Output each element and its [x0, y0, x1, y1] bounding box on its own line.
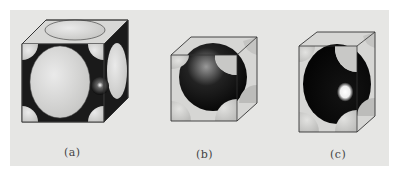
caption-b: (b): [196, 148, 213, 161]
bct-unit-cell-diagram: [295, 28, 380, 138]
fcc-unit-cell-diagram: [18, 16, 133, 126]
caption-a: (a): [64, 146, 81, 159]
caption-c: (c): [330, 148, 346, 161]
bcc-unit-cell-diagram: [167, 33, 262, 128]
